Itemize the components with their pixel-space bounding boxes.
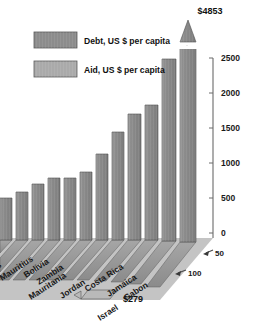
depth-tick-label: 100 [188, 269, 202, 278]
bar-group [16, 192, 28, 240]
bar-group [64, 178, 76, 240]
y-tick-label: 1000 [221, 158, 240, 168]
max-debt-callout: $4853 [197, 6, 222, 16]
y-tick-label: 2000 [221, 88, 240, 98]
bar-group [145, 105, 158, 240]
bar-group [0, 198, 12, 240]
bar-group [48, 178, 60, 240]
bar-group [128, 114, 141, 240]
depth-tick-label: 50 [215, 249, 224, 258]
bar-group [32, 184, 44, 240]
israel-aid-callout: $279 [123, 294, 143, 304]
legend-label-aid: Aid, US $ per capita [84, 65, 165, 75]
y-tick-label: 500 [221, 193, 235, 203]
legend-label-debt: Debt, US $ per capita [84, 36, 170, 46]
chart-container: 2500 2000 1500 1000 500 0 50 100 s Mauri… [0, 0, 269, 331]
bar-group [96, 154, 108, 240]
bar-group [112, 132, 124, 240]
bar-group-broken [179, 20, 197, 242]
bar-group [80, 172, 92, 240]
bar-chart-svg: 2500 2000 1500 1000 500 0 50 100 s Mauri… [0, 0, 269, 331]
bar-group [162, 59, 176, 241]
y-tick-label: 0 [221, 228, 226, 238]
y-tick-label: 1500 [221, 123, 240, 133]
y-tick-label: 2500 [221, 53, 240, 63]
